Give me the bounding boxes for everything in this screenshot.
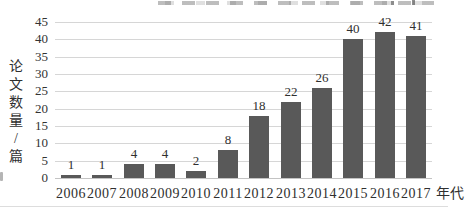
y-axis-title: 论文数量/篇 xyxy=(6,58,26,166)
y-axis-title-char: 数 xyxy=(6,94,26,112)
bar-2006 xyxy=(61,175,81,178)
x-axis-title: 年代 xyxy=(436,186,464,201)
y-tick-label: 0 xyxy=(14,171,48,185)
bar-chart-screenshot: 0510152025303540451200612007420084200922… xyxy=(0,0,467,211)
y-axis-title-char: 量 xyxy=(6,112,26,130)
bar-2008 xyxy=(124,164,144,178)
bar-2010 xyxy=(186,171,206,178)
y-axis-title-char: 篇 xyxy=(6,148,26,166)
bar-value-label: 26 xyxy=(307,71,337,85)
y-axis-title-char: 文 xyxy=(6,76,26,94)
bar-2009 xyxy=(155,164,175,178)
bar-value-label: 8 xyxy=(213,133,243,147)
y-tick-label: 40 xyxy=(14,32,48,46)
bar-2013 xyxy=(281,102,301,178)
gridline-y-0 xyxy=(55,178,432,179)
bar-2017 xyxy=(406,36,426,178)
bar-value-label: 4 xyxy=(119,147,149,161)
bar-value-label: 42 xyxy=(370,15,400,29)
bar-value-label: 4 xyxy=(150,147,180,161)
bar-value-label: 1 xyxy=(87,158,117,172)
bar-2012 xyxy=(249,116,269,178)
y-axis-title-char: 论 xyxy=(6,58,26,76)
bar-2011 xyxy=(218,150,238,178)
bar-2016 xyxy=(375,32,395,178)
y-tick-label: 45 xyxy=(14,15,48,29)
bar-value-label: 18 xyxy=(244,99,274,113)
y-axis-title-char: / xyxy=(6,130,26,148)
bar-value-label: 2 xyxy=(181,154,211,168)
x-tick-label: 2017 xyxy=(395,186,437,201)
scan-artifact-line xyxy=(0,206,448,207)
bar-2014 xyxy=(312,88,332,178)
bar-value-label: 40 xyxy=(338,22,368,36)
bar-value-label: 22 xyxy=(276,85,306,99)
papers-per-year-bar-chart: 0510152025303540451200612007420084200922… xyxy=(0,0,467,211)
bar-value-label: 1 xyxy=(56,158,86,172)
scan-artifact xyxy=(0,172,3,181)
bar-2015 xyxy=(343,39,363,178)
bar-value-label: 41 xyxy=(401,19,431,33)
bar-2007 xyxy=(92,175,112,178)
